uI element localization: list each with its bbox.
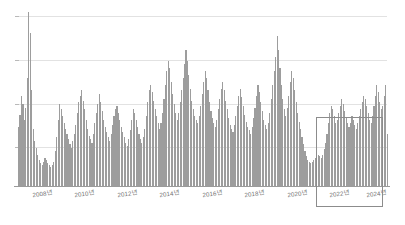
bar: [387, 134, 388, 186]
x-axis-tick-label: 2020년: [287, 188, 308, 199]
x-axis-tick-label: 2012년: [117, 188, 138, 199]
recent-period-highlight-box: [316, 117, 383, 207]
x-axis-tick-label: 2008년: [32, 188, 53, 199]
bar-chart-figure: 2008년2010년2012년2014년2016년2018년2020년2022년…: [0, 0, 405, 225]
x-axis-tick-label: 2010년: [74, 188, 95, 199]
x-axis-tick-label: 2016년: [202, 188, 223, 199]
x-axis-tick-label: 2014년: [159, 188, 180, 199]
x-axis-tick-label: 2018년: [244, 188, 265, 199]
